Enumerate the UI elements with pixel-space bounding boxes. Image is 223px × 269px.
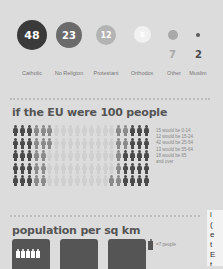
no-religion-label: No Religion	[55, 70, 83, 76]
side-line: E	[210, 250, 223, 260]
religion-no-religion: 23	[56, 22, 82, 48]
density-block-2	[60, 239, 98, 269]
religion-chart: 48 Catholic 23 No Religion 12 Protestant…	[0, 18, 223, 88]
people-grid	[12, 125, 150, 188]
person-icon	[60, 150, 67, 161]
side-line: e	[210, 230, 223, 240]
people-row	[12, 175, 150, 188]
person-icon	[129, 138, 136, 149]
person-icon	[95, 175, 102, 186]
person-icon	[95, 125, 102, 136]
person-icon	[40, 163, 47, 174]
religion-protestant: 12	[96, 25, 116, 45]
person-icon	[122, 138, 129, 149]
person-icon	[26, 150, 33, 161]
person-icon	[136, 150, 143, 161]
person-icon	[53, 163, 60, 174]
person-icon	[95, 163, 102, 174]
bubble-other	[168, 30, 178, 40]
muslim-value: 2	[195, 49, 202, 60]
person-icon	[108, 150, 115, 161]
catholic-label: Catholic	[22, 70, 42, 76]
person-icon	[26, 138, 33, 149]
person-icon	[53, 150, 60, 161]
person-icon	[129, 175, 136, 186]
side-text-fragment: i ( e t E t	[207, 210, 223, 266]
person-icon	[95, 138, 102, 149]
person-icon	[81, 150, 88, 161]
muslim-label: Muslim	[189, 70, 206, 76]
person-icon	[40, 150, 47, 161]
person-icon	[12, 163, 19, 174]
person-icon	[46, 175, 53, 186]
person-icon	[67, 175, 74, 186]
person-icon	[129, 125, 136, 136]
person-icon	[67, 163, 74, 174]
section-divider-2	[10, 215, 200, 217]
person-icon	[136, 175, 143, 186]
person-icon	[136, 125, 143, 136]
bubble-protestant: 12	[96, 25, 116, 45]
protestant-label: Protestant	[93, 70, 118, 76]
orthodox-label: Orthodox	[131, 70, 154, 76]
person-icon	[21, 249, 25, 259]
mini-people	[16, 249, 40, 259]
person-icon	[74, 150, 81, 161]
person-icon	[81, 125, 88, 136]
person-icon	[81, 138, 88, 149]
eu100-title: if the EU were 100 people	[12, 106, 167, 119]
person-icon	[122, 150, 129, 161]
person-icon	[115, 138, 122, 149]
person-icon	[74, 175, 81, 186]
religion-orthodox: 8	[134, 26, 151, 43]
person-icon	[19, 125, 26, 136]
person-icon	[122, 175, 129, 186]
person-icon	[122, 125, 129, 136]
person-icon	[74, 163, 81, 174]
person-icon	[19, 150, 26, 161]
people-row	[12, 125, 150, 138]
person-icon	[81, 163, 88, 174]
side-line: t	[210, 240, 223, 250]
person-icon	[88, 175, 95, 186]
other-label: Other	[167, 70, 181, 76]
person-icon	[60, 138, 67, 149]
people-row	[12, 163, 150, 176]
person-icon	[143, 175, 150, 186]
people-row	[12, 150, 150, 163]
person-icon	[108, 125, 115, 136]
bubble-muslim	[196, 33, 200, 37]
orthodox-value: 8	[140, 31, 145, 39]
person-icon	[26, 163, 33, 174]
no-religion-value: 23	[62, 30, 76, 41]
person-icon	[33, 125, 40, 136]
person-icon	[26, 125, 33, 136]
bubble-orthodox: 8	[134, 26, 151, 43]
person-icon	[102, 138, 109, 149]
person-icon	[12, 175, 19, 186]
side-line: t	[210, 260, 223, 266]
person-icon	[143, 150, 150, 161]
person-icon	[36, 249, 40, 259]
person-icon	[88, 125, 95, 136]
person-icon	[19, 175, 26, 186]
person-icon	[12, 138, 19, 149]
person-icon	[53, 138, 60, 149]
age-legend: 15 would be 0-14 12 would be 15-24 42 wo…	[156, 128, 211, 165]
person-icon	[108, 163, 115, 174]
person-icon	[115, 175, 122, 186]
person-icon	[46, 125, 53, 136]
person-icon	[143, 163, 150, 174]
person-icon	[31, 249, 35, 259]
person-icon	[46, 150, 53, 161]
person-icon	[19, 163, 26, 174]
person-icon	[53, 175, 60, 186]
person-icon	[26, 175, 33, 186]
density-block-1	[12, 239, 50, 269]
person-icon	[46, 138, 53, 149]
person-icon	[115, 150, 122, 161]
person-icon	[40, 138, 47, 149]
bubble-catholic: 48	[17, 20, 47, 50]
legend-and-over: and over	[156, 159, 211, 165]
person-icon	[102, 125, 109, 136]
